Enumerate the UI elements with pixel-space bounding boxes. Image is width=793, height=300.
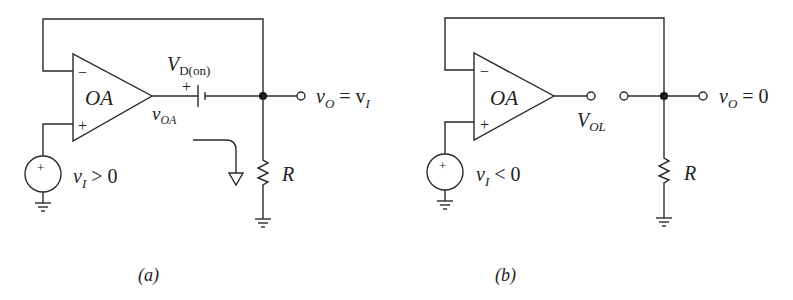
output-label-b: vO = 0 — [719, 85, 769, 111]
open-terminal-node-b — [620, 92, 628, 100]
panel-a: OA − + + vI > 0 + VD(on) vOA vO = vI — [25, 19, 371, 286]
diode-plus-sign: + — [182, 78, 191, 95]
caption-a: (a) — [138, 265, 159, 286]
source-plus-sign-b: + — [439, 158, 446, 173]
source-label-b: vI < 0 — [476, 163, 521, 189]
noninverting-sign-b: + — [480, 116, 489, 133]
current-arrow-icon — [193, 140, 243, 185]
rectifier-diagram: OA − + + vI > 0 + VD(on) vOA vO = vI — [0, 0, 793, 300]
diode-voltage-label: VD(on) — [167, 53, 210, 78]
resistor-label-b: R — [683, 162, 696, 184]
input-wire-b — [445, 122, 474, 154]
opamp-output-label-a: vOA — [152, 103, 177, 127]
opamp-output-label-b: VOL — [577, 109, 606, 134]
resistor-a — [258, 96, 268, 219]
ground-icon — [255, 219, 271, 227]
source-label-a: vI > 0 — [73, 165, 118, 191]
battery-diode-icon — [198, 85, 205, 107]
output-terminal-a — [297, 92, 305, 100]
noninverting-sign-a: + — [78, 117, 87, 134]
output-terminal-b — [699, 92, 707, 100]
resistor-b — [659, 96, 669, 218]
inverting-sign-b: − — [480, 63, 489, 80]
feedback-wire-a — [43, 19, 263, 96]
inverting-sign-a: − — [78, 64, 87, 81]
feedback-wire-b — [445, 18, 664, 96]
ground-icon — [35, 192, 51, 211]
panel-b: OA − + + vI < 0 VOL vO = 0 R (b) — [427, 18, 769, 286]
source-plus-sign-a: + — [37, 160, 44, 175]
input-wire-a — [43, 124, 73, 156]
output-label-a: vO = vI — [316, 85, 371, 111]
ground-icon — [656, 218, 672, 226]
opamp-label-b: OA — [490, 86, 518, 110]
ground-icon — [437, 190, 453, 209]
open-terminal-opamp-b — [587, 92, 595, 100]
opamp-label-a: OA — [85, 86, 113, 110]
caption-b: (b) — [495, 265, 516, 286]
resistor-label-a: R — [281, 163, 294, 185]
